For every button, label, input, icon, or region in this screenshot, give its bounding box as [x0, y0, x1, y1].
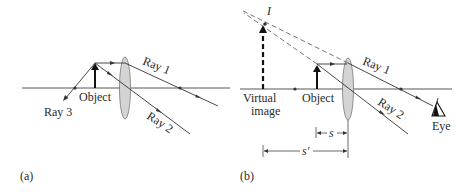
label-ray-3: Ray 3 [44, 105, 72, 119]
panel-a: Object Ray 3 Ray 1 Ray 2 (a) [20, 54, 230, 183]
label-ray-1-a: Ray 1 [141, 54, 173, 78]
ray-1-arrow-icon-2 [196, 95, 202, 98]
ray-2-arrow-icon [107, 71, 113, 76]
ray-1-arrow-icon-b [330, 62, 335, 66]
label-s: s [329, 126, 334, 140]
dimension-s-prime: s′ [263, 144, 347, 158]
panel-b: I Virtual image Object Ray 1 Ray 2 Eye [240, 4, 452, 183]
label-virtual-image-line1: Virtual [243, 91, 277, 105]
caption-b: (b) [240, 169, 254, 183]
ray-1-refracted [125, 63, 218, 106]
label-ray-2-a: Ray 2 [144, 109, 175, 136]
ray-1-arrow-icon-b2 [416, 96, 422, 100]
focal-point-left-b [293, 87, 296, 90]
caption-a: (a) [20, 169, 33, 183]
label-virtual-image-line2: image [251, 104, 280, 118]
ray-2-virtual-extension [244, 13, 317, 64]
label-ray-2-b: Ray 2 [375, 95, 406, 122]
ray-1-arrow-icon [110, 61, 115, 65]
label-image-point: I [266, 4, 272, 18]
label-eye: Eye [432, 119, 451, 133]
label-ray-1-b: Ray 1 [361, 54, 393, 78]
eye-icon [432, 98, 445, 116]
label-object-a: Object [79, 90, 112, 104]
ray-1-virtual-extension [243, 11, 348, 63]
label-object-b: Object [302, 91, 335, 105]
convex-lens-b [343, 58, 354, 120]
label-s-prime: s′ [302, 144, 310, 158]
optics-diagram: Object Ray 3 Ray 1 Ray 2 (a) I [0, 0, 474, 192]
